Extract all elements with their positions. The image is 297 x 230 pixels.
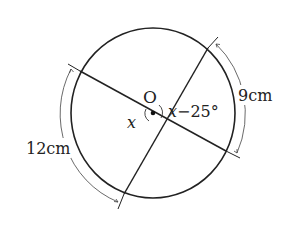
arrow-right-bottom [234,149,237,153]
tick-b-lower [118,194,124,209]
arrow-left-top [70,69,74,73]
tick-a-lower [226,151,240,158]
arc-left-label: 12cm [26,139,71,158]
angle-right-label: x−25° [168,102,219,121]
angle-arc-left [145,109,149,121]
center-label: O [143,87,157,107]
circle-diagram: O x x−25° 9cm 12cm [0,0,297,230]
diameter-b [124,48,208,194]
arc-right-label: 9cm [238,86,272,105]
tick-a-upper [68,64,80,71]
angle-left-label: x [127,113,136,132]
arc-measure-left [60,69,118,202]
center-point [151,111,156,116]
